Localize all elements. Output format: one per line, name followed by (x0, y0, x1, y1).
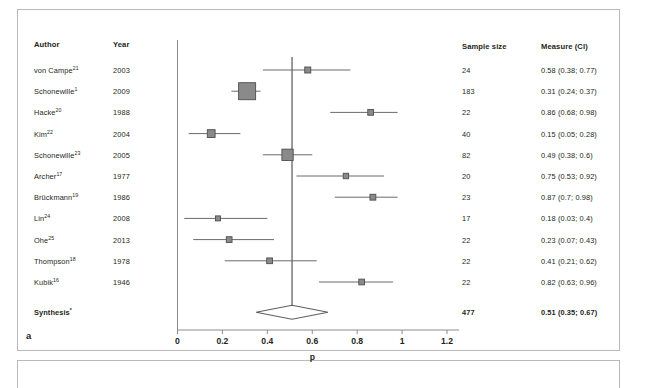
cell-sample-size: 20 (462, 172, 470, 181)
cell-sample-size: 183 (462, 87, 475, 96)
cell-year: 1946 (113, 278, 130, 287)
x-axis-tick-label: 0 (175, 336, 180, 346)
column-header-measure: Measure (CI) (541, 42, 588, 51)
cell-author: Schonewille1 (34, 87, 78, 96)
cell-year: 2004 (113, 130, 130, 139)
cell-measure: 0.18 (0.03; 0.4) (541, 214, 593, 223)
cell-measure: 0.23 (0.07; 0.43) (541, 236, 597, 245)
cell-year: 2013 (113, 236, 130, 245)
cell-year: 2005 (113, 151, 130, 160)
cell-measure: 0.41 (0.21; 0.62) (541, 257, 597, 266)
cell-measure: 0.86 (0.68; 0.98) (541, 108, 597, 117)
cell-year: 1988 (113, 108, 130, 117)
cell-measure: 0.82 (0.63; 0.96) (541, 278, 597, 287)
cell-sample-size: 23 (462, 193, 470, 202)
cell-measure: 0.87 (0.7; 0.98) (541, 193, 593, 202)
cell-author: Ohe25 (34, 236, 54, 245)
cell-author-summary: Synthesis* (34, 308, 72, 317)
column-header-sample-size: Sample size (462, 42, 507, 51)
cell-sample-size: 22 (462, 257, 470, 266)
cell-author: Kim22 (34, 130, 53, 139)
cell-year: 2009 (113, 87, 130, 96)
panel-letter-a: a (26, 330, 31, 341)
cell-year: 1978 (113, 257, 130, 266)
next-panel-frame (17, 360, 620, 388)
cell-sample-size: 22 (462, 236, 470, 245)
cell-sample-size: 24 (462, 66, 470, 75)
cell-author: Kubik16 (34, 278, 59, 287)
cell-sample-size-summary: 477 (462, 308, 475, 317)
x-axis-tick-label: 0.4 (261, 336, 273, 346)
cell-measure: 0.31 (0.24; 0.37) (541, 87, 597, 96)
cell-measure: 0.49 (0.38; 0.6) (541, 151, 593, 160)
cell-author: Brückmann19 (34, 193, 78, 202)
cell-author: Lin24 (34, 214, 50, 223)
cell-measure: 0.15 (0.05; 0.28) (541, 130, 597, 139)
cell-sample-size: 40 (462, 130, 470, 139)
cell-author: Hacke20 (34, 108, 61, 117)
x-axis-tick-label: 1.2 (441, 336, 453, 346)
forest-plot-panel (17, 9, 620, 351)
cell-measure: 0.58 (0.38; 0.77) (541, 66, 597, 75)
cell-year: 2003 (113, 66, 130, 75)
x-axis-tick-label: 0.2 (216, 336, 228, 346)
cell-author: Schonewille23 (34, 151, 81, 160)
cell-year: 2008 (113, 214, 130, 223)
cell-sample-size: 22 (462, 108, 470, 117)
cell-sample-size: 17 (462, 214, 470, 223)
cell-measure-summary: 0.51 (0.35; 0.67) (541, 308, 597, 317)
cell-year: 1977 (113, 172, 130, 181)
cell-author: Thompson18 (34, 257, 76, 266)
cell-author: Archer17 (34, 172, 62, 181)
cell-sample-size: 82 (462, 151, 470, 160)
x-axis-tick-label: 0.8 (351, 336, 363, 346)
cell-measure: 0.75 (0.53; 0.92) (541, 172, 597, 181)
column-header-author: Author (34, 40, 59, 49)
cell-sample-size: 22 (462, 278, 470, 287)
x-axis-title: p (310, 352, 315, 362)
cell-year: 1986 (113, 193, 130, 202)
x-axis-tick-label: 0.6 (306, 336, 318, 346)
column-header-year: Year (113, 40, 129, 49)
cell-author: von Campe21 (34, 66, 79, 75)
x-axis-tick-label: 1 (400, 336, 405, 346)
